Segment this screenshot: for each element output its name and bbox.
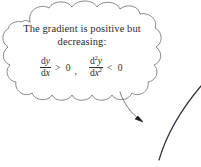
first-derivative-expression: dy dx > 0 , <box>40 57 81 78</box>
second-derivative-numerator-var: y <box>98 56 102 66</box>
first-derivative-numerator-var: y <box>46 56 50 66</box>
thought-cloud-outline <box>3 1 161 100</box>
bubble-text-line1: The gradient is positive but <box>23 23 141 34</box>
second-derivative-denominator: dx2 <box>89 68 103 78</box>
first-derivative-fraction: dy dx <box>40 57 51 78</box>
first-derivative-relation: > <box>53 63 61 73</box>
second-derivative-expression: d2y dx2 < 0 <box>89 57 124 78</box>
first-derivative-denominator: dx <box>40 68 51 78</box>
second-derivative-value: 0 <box>116 63 124 73</box>
first-derivative-value: 0 <box>64 63 72 73</box>
second-derivative-fraction: d2y dx2 <box>89 57 103 78</box>
formula-separator: , <box>75 66 81 76</box>
screenshot-canvas: · The gradient is positive but decreasin… <box>0 0 201 167</box>
concave-down-curve <box>159 86 201 160</box>
bubble-text-line2: decreasing: <box>14 36 150 49</box>
second-derivative-denominator-exp: 2 <box>99 66 102 73</box>
derivative-formula: dy dx > 0 , d2y dx2 < 0 <box>14 57 150 78</box>
first-derivative-numerator: dy <box>40 57 51 68</box>
cropped-mark: · <box>9 0 18 2</box>
second-derivative-relation: < <box>105 63 113 73</box>
bubble-text-block: The gradient is positive but decreasing: <box>14 23 150 48</box>
